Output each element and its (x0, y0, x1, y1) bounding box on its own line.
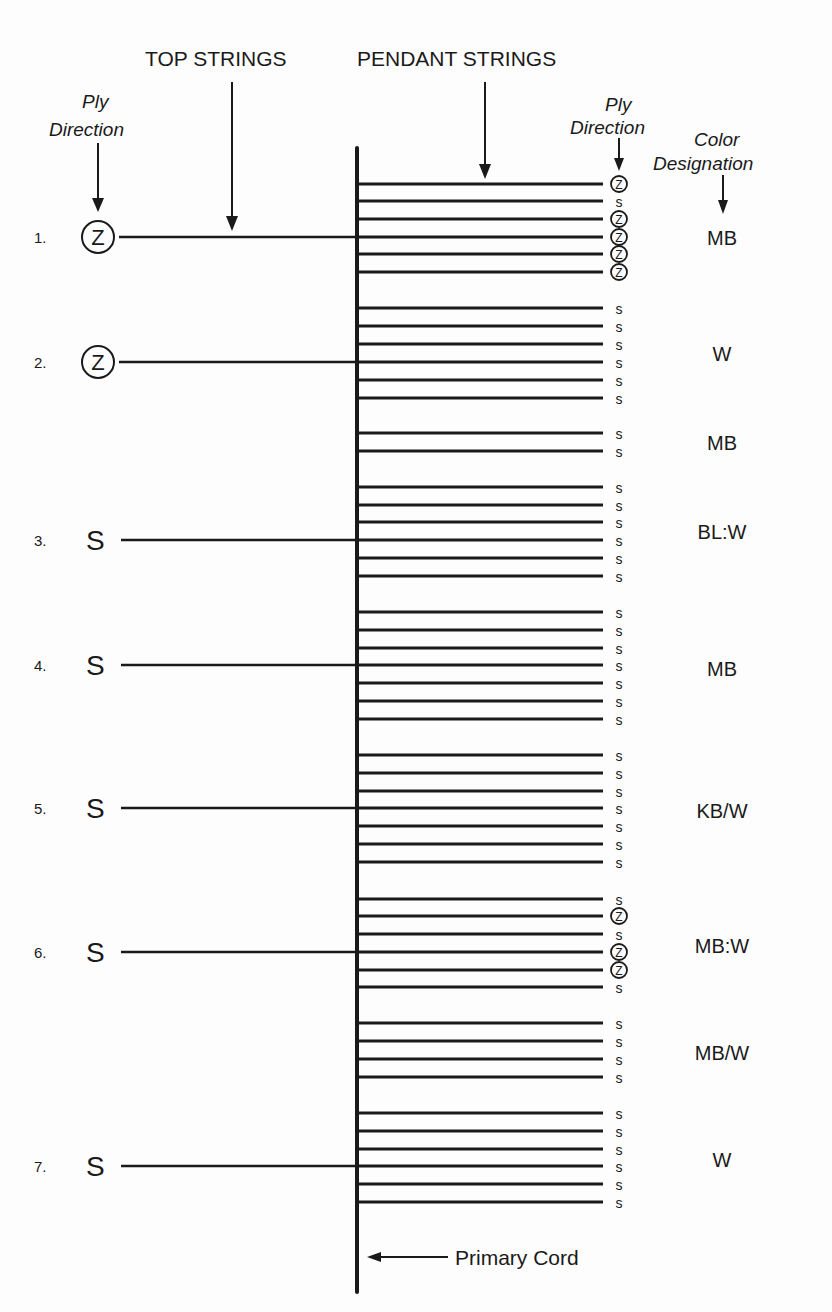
pendant-ply-label: s (616, 784, 623, 800)
top-string-number: 5. (34, 800, 47, 817)
pendant-strings-header: PENDANT STRINGS (357, 47, 556, 70)
pendant-ply-label: s (616, 1052, 623, 1068)
color-designation: BL:W (698, 521, 747, 543)
pendant-ply-label: Z (615, 178, 622, 192)
color-designation: MB (707, 658, 737, 680)
pendant-group: sZsZZsMB:W (359, 892, 749, 996)
pendant-strings-arrow-icon (479, 82, 491, 179)
pendant-ply-label: s (616, 801, 623, 817)
pendant-ply-label: s (616, 373, 623, 389)
pendant-ply-label: s (616, 498, 623, 514)
top-string: 6.S (34, 937, 357, 968)
top-string-number: 2. (34, 354, 47, 371)
pendant-ply-label: s (616, 480, 623, 496)
pendant-ply-label: s (616, 1034, 623, 1050)
pendant-ply-label: s (616, 301, 623, 317)
pendant-ply-label: Z (615, 946, 622, 960)
pendant-ply-label: s (616, 1070, 623, 1086)
top-string-number: 4. (34, 657, 47, 674)
pendant-group: ssssssW (359, 1106, 732, 1211)
top-string-number: 6. (34, 944, 47, 961)
pendant-ply-label: s (616, 837, 623, 853)
pendant-ply-label: s (616, 1177, 623, 1193)
pendant-ply-label: s (616, 641, 623, 657)
pendant-ply-label: s (616, 980, 623, 996)
ply-label: S (86, 1151, 105, 1182)
khipu-diagram: TOP STRINGS PENDANT STRINGS Ply Directio… (0, 0, 832, 1312)
ply-label: S (86, 525, 105, 556)
pendant-group: ssssssBL:W (359, 480, 747, 585)
color-designation-arrow-icon (718, 175, 728, 214)
pendant-group: ssssMB/W (359, 1016, 749, 1086)
color-designation: KB/W (696, 800, 747, 822)
pendant-group: ssssssW (359, 301, 732, 407)
top-string: 1.Z (34, 221, 357, 253)
pendant-ply-label: s (616, 892, 623, 908)
color-designation-label-line1: Color (694, 129, 740, 150)
pendant-ply-label: Z (615, 266, 622, 280)
pendant-ply-label: s (616, 712, 623, 728)
ply-direction-left-arrow-icon (92, 143, 104, 212)
pendant-ply-label: s (616, 605, 623, 621)
pendant-group: ZsZZZZMB (359, 176, 737, 280)
pendant-ply-label: Z (615, 213, 622, 227)
top-strings-arrow-icon (226, 82, 238, 231)
ply-direction-left-label-line1: Ply (82, 91, 110, 112)
ply-direction-right-label-line2: Direction (570, 117, 645, 138)
ply-direction-right-label-line1: Ply (605, 94, 633, 115)
top-string-number: 3. (34, 532, 47, 549)
ply-direction-right-arrow-icon (614, 138, 624, 171)
primary-cord-label: Primary Cord (455, 1246, 579, 1269)
primary-cord-arrow-icon (367, 1252, 448, 1262)
pendant-ply-label: s (616, 194, 623, 210)
ply-label: Z (91, 225, 104, 250)
color-designation: MB/W (695, 1042, 750, 1064)
pendant-ply-label: s (616, 748, 623, 764)
top-string-number: 1. (34, 229, 47, 246)
ply-label: Z (91, 350, 104, 375)
color-designation: W (713, 343, 732, 365)
top-string: 4.S (34, 650, 357, 681)
pendant-group: ssMB (359, 426, 737, 460)
pendant-ply-label: s (616, 927, 623, 943)
color-designation-label-line2: Designation (653, 153, 753, 174)
pendant-ply-label: s (616, 1106, 623, 1122)
pendant-ply-label: s (616, 533, 623, 549)
pendant-ply-label: s (616, 766, 623, 782)
pendant-ply-label: Z (615, 231, 622, 245)
pendant-ply-label: s (616, 676, 623, 692)
top-strings: 1.Z2.Z3.S4.S5.S6.S7.S (34, 221, 357, 1182)
top-string: 5.S (34, 793, 357, 824)
pendant-strings: ZsZZZZMBssssssWssMBssssssBL:WsssssssMBss… (359, 176, 749, 1211)
pendant-ply-label: s (616, 1195, 623, 1211)
pendant-ply-label: s (616, 694, 623, 710)
pendant-ply-label: s (616, 1159, 623, 1175)
color-designation: MB (707, 432, 737, 454)
pendant-ply-label: Z (615, 910, 622, 924)
pendant-ply-label: s (616, 569, 623, 585)
pendant-ply-label: Z (615, 248, 622, 262)
pendant-ply-label: s (616, 855, 623, 871)
top-strings-header: TOP STRINGS (145, 47, 287, 70)
color-designation: MB:W (695, 935, 750, 957)
top-string: 3.S (34, 525, 357, 556)
pendant-ply-label: s (616, 444, 623, 460)
pendant-ply-label: s (616, 319, 623, 335)
pendant-ply-label: s (616, 551, 623, 567)
pendant-ply-label: s (616, 355, 623, 371)
ply-label: S (86, 937, 105, 968)
color-designation: W (713, 1149, 732, 1171)
pendant-ply-label: s (616, 426, 623, 442)
top-string: 2.Z (34, 346, 357, 378)
pendant-ply-label: s (616, 1016, 623, 1032)
pendant-group: sssssssMB (359, 605, 737, 728)
top-string: 7.S (34, 1151, 357, 1182)
pendant-ply-label: s (616, 623, 623, 639)
pendant-ply-label: s (616, 1142, 623, 1158)
top-string-number: 7. (34, 1158, 47, 1175)
ply-direction-left-label-line2: Direction (49, 119, 124, 140)
pendant-ply-label: s (616, 658, 623, 674)
pendant-ply-label: s (616, 391, 623, 407)
pendant-group: sssssssKB/W (359, 748, 748, 871)
pendant-ply-label: s (616, 1124, 623, 1140)
